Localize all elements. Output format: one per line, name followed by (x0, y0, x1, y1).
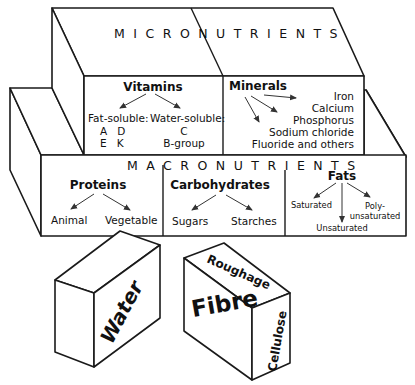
fats-heading: Fats (328, 169, 356, 183)
mineral-item: Iron (334, 90, 354, 102)
protein-item: Vegetable (105, 214, 158, 226)
water-soluble-item: C (180, 125, 187, 137)
mineral-item: Phosphorus (293, 114, 354, 126)
fat-poly-line1: Poly- (365, 201, 385, 211)
mineral-item: Sodium chloride (269, 126, 354, 138)
protein-item: Animal (51, 214, 87, 226)
fat-saturated: Saturated (291, 200, 332, 210)
macro-top-right-strip (364, 90, 406, 157)
micronutrients-title: MICRONUTRIENTS (114, 26, 346, 41)
fat-unsaturated: Unsaturated (316, 223, 367, 233)
fat-soluble-row1: A D (100, 125, 125, 137)
carbohydrates-heading: Carbohydrates (170, 178, 270, 192)
fat-soluble-label: Fat-soluble: (88, 112, 148, 124)
vitamins-heading: Vitamins (123, 80, 182, 94)
water-left-face (55, 280, 94, 367)
proteins-heading: Proteins (70, 178, 127, 192)
carb-item: Starches (231, 215, 277, 227)
water-soluble-label: Water-soluble: (150, 112, 225, 124)
mineral-item: Fluoride and others (252, 138, 354, 150)
fat-poly-line2: unsaturated (350, 211, 401, 221)
minerals-heading: Minerals (229, 79, 287, 93)
carb-item: Sugars (172, 215, 208, 227)
water-block: Water (55, 231, 160, 367)
fat-soluble-row2: E K (100, 137, 125, 149)
water-soluble-item: B-group (163, 137, 205, 149)
mineral-item: Calcium (312, 102, 354, 114)
micro-top-face (52, 8, 364, 76)
nutrients-diagram: MICRONUTRIENTS Vitamins Fat-soluble: Wat… (0, 0, 415, 385)
fibre-block: Roughage Fibre Cellulose (184, 243, 290, 380)
